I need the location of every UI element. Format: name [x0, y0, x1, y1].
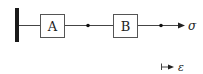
node-dot — [86, 24, 90, 28]
strain-symbol: ε — [178, 61, 184, 74]
element-a: A — [41, 15, 65, 38]
stress-symbol: σ — [188, 19, 197, 33]
element-a-label: A — [47, 19, 58, 34]
strain-indicator: ε — [162, 61, 185, 74]
fixed-wall — [15, 8, 19, 42]
node-dot — [159, 24, 163, 28]
element-b-label: B — [121, 19, 131, 34]
element-b: B — [114, 15, 138, 38]
stress-arrow-icon — [178, 23, 185, 29]
strain-arrow-icon — [168, 65, 174, 70]
model-diagram: A B σ ε — [0, 0, 203, 73]
